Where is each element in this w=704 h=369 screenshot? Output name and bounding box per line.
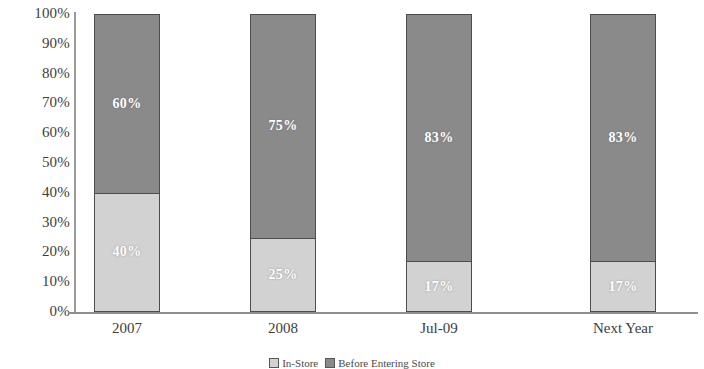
- y-tick-label: 0%: [6, 304, 70, 319]
- bar-segment-label: 75%: [269, 118, 298, 134]
- bar-group-jul-09: 83% 17%: [406, 14, 472, 312]
- bar-group-2008: 75% 25%: [250, 14, 316, 312]
- legend: In-Store Before Entering Store: [0, 357, 704, 369]
- bar-stack: 83% 17%: [406, 14, 472, 312]
- bar-stack: 60% 40%: [94, 14, 160, 312]
- y-tick-label: 40%: [6, 185, 70, 200]
- bar-segment-before-entering-store[interactable]: 83%: [406, 14, 472, 261]
- x-axis-label: 2007: [72, 320, 182, 336]
- bar-segment-in-store[interactable]: 25%: [250, 238, 316, 313]
- y-tick-label: 100%: [6, 6, 70, 21]
- bar-segment-label: 83%: [609, 130, 638, 146]
- bar-segment-label: 40%: [113, 244, 142, 260]
- y-tick-label: 10%: [6, 274, 70, 289]
- bar-segment-label: 60%: [113, 96, 142, 112]
- y-tick-label: 30%: [6, 215, 70, 230]
- y-tick-label: 60%: [6, 125, 70, 140]
- x-axis-label: 2008: [228, 320, 338, 336]
- plot-area: 60% 40% 75% 25% 83%: [74, 14, 698, 312]
- bar-segment-before-entering-store[interactable]: 75%: [250, 14, 316, 238]
- x-axis-line: [68, 312, 698, 314]
- bar-stack: 75% 25%: [250, 14, 316, 312]
- legend-item-in-store[interactable]: In-Store: [269, 357, 318, 369]
- legend-label: In-Store: [282, 357, 318, 369]
- legend-label: Before Entering Store: [338, 357, 435, 369]
- bar-group-2007: 60% 40%: [94, 14, 160, 312]
- y-tick-label: 70%: [6, 95, 70, 110]
- bar-segment-in-store[interactable]: 17%: [406, 261, 472, 312]
- bar-group-next-year: 83% 17%: [590, 14, 656, 312]
- before-entering-store-swatch-icon: [325, 358, 335, 368]
- bar-segment-before-entering-store[interactable]: 60%: [94, 14, 160, 193]
- stacked-bar-chart: 100% 90% 80% 70% 60% 50% 40% 30% 20% 10%: [0, 0, 704, 369]
- bar-stack: 83% 17%: [590, 14, 656, 312]
- bar-segment-label: 17%: [425, 279, 454, 295]
- y-tick-label: 80%: [6, 66, 70, 81]
- y-tick-label: 50%: [6, 155, 70, 170]
- bar-segment-in-store[interactable]: 40%: [94, 193, 160, 312]
- bar-segment-label: 25%: [269, 267, 298, 283]
- y-tick-label: 20%: [6, 244, 70, 259]
- in-store-swatch-icon: [269, 358, 279, 368]
- x-axis-label: Next Year: [568, 320, 678, 336]
- legend-item-before-entering-store[interactable]: Before Entering Store: [325, 357, 435, 369]
- y-tick-label: 90%: [6, 36, 70, 51]
- bar-segment-label: 17%: [609, 279, 638, 295]
- x-axis-label: Jul-09: [384, 320, 494, 336]
- bar-segment-label: 83%: [425, 130, 454, 146]
- bar-segment-in-store[interactable]: 17%: [590, 261, 656, 312]
- bar-segment-before-entering-store[interactable]: 83%: [590, 14, 656, 261]
